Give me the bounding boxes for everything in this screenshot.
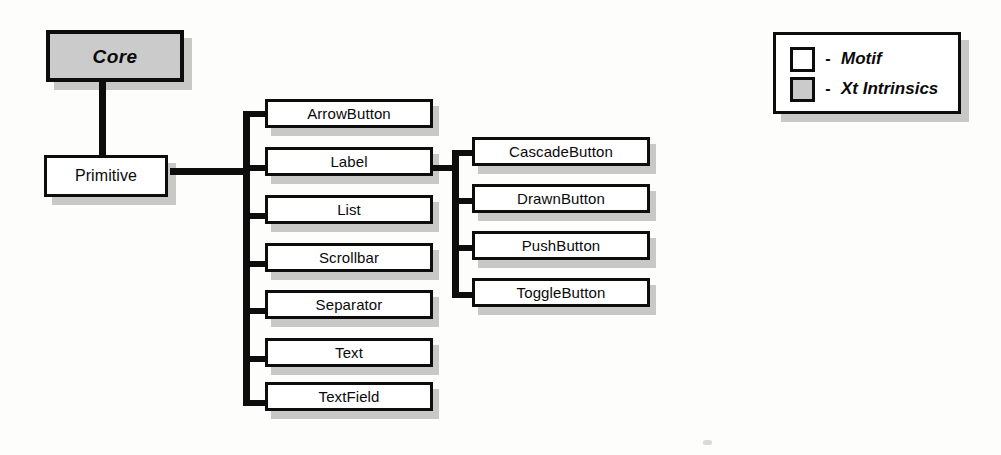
node-togglebutton-label: ToggleButton: [517, 285, 606, 300]
node-list[interactable]: List: [265, 195, 433, 224]
legend-item-motif-label: Motif: [841, 49, 882, 69]
node-label[interactable]: Label: [265, 147, 433, 176]
legend-item-xt-intrinsics-label: Xt Intrinsics: [841, 79, 938, 99]
connector-stub-text: [243, 356, 267, 362]
legend-item-xt-intrinsics: - Xt Intrinsics: [790, 74, 944, 104]
node-textfield-label: TextField: [319, 389, 380, 404]
node-pushbutton[interactable]: PushButton: [472, 231, 650, 260]
connector-stub-label: [243, 165, 267, 171]
connector-stub-textfield: [243, 400, 267, 406]
node-scrollbar-label: Scrollbar: [319, 250, 379, 265]
node-drawnbutton[interactable]: DrawnButton: [472, 184, 650, 213]
node-cascadebutton-label: CascadeButton: [509, 144, 613, 159]
node-text[interactable]: Text: [265, 338, 433, 367]
node-drawnbutton-label: DrawnButton: [517, 191, 605, 206]
connector-stub-scrollbar: [243, 261, 267, 267]
node-text-label: Text: [335, 345, 363, 360]
node-scrollbar[interactable]: Scrollbar: [265, 243, 433, 272]
node-cascadebutton[interactable]: CascadeButton: [472, 137, 650, 166]
node-pushbutton-label: PushButton: [522, 238, 601, 253]
node-textfield[interactable]: TextField: [265, 382, 433, 411]
connector-core-to-primitive: [99, 82, 106, 157]
node-core-label: Core: [93, 47, 138, 66]
diagram-canvas: Core Primitive ArrowButton Label List Sc…: [0, 0, 1001, 455]
node-separator[interactable]: Separator: [265, 290, 433, 319]
connector-stub-list: [243, 213, 267, 219]
node-separator-label: Separator: [316, 297, 383, 312]
gray-square-icon: [790, 77, 815, 102]
connector-label-bus: [452, 150, 459, 298]
legend-dash: -: [815, 50, 841, 68]
node-list-label: List: [337, 202, 361, 217]
legend-item-motif: - Motif: [790, 44, 944, 74]
connector-primitive-to-bus: [170, 168, 250, 175]
connector-stub-arrowbutton: [243, 111, 267, 117]
node-core[interactable]: Core: [46, 30, 184, 82]
node-primitive[interactable]: Primitive: [44, 155, 168, 197]
node-arrowbutton-label: ArrowButton: [307, 106, 391, 121]
legend-dash: -: [815, 80, 841, 98]
node-primitive-label: Primitive: [75, 168, 137, 184]
legend: - Motif - Xt Intrinsics: [773, 32, 961, 114]
connector-stub-separator: [243, 308, 267, 314]
node-arrowbutton[interactable]: ArrowButton: [265, 99, 433, 128]
white-square-icon: [790, 47, 815, 72]
scan-speck: [703, 440, 712, 445]
node-label-label: Label: [330, 154, 367, 169]
node-togglebutton[interactable]: ToggleButton: [472, 278, 650, 307]
